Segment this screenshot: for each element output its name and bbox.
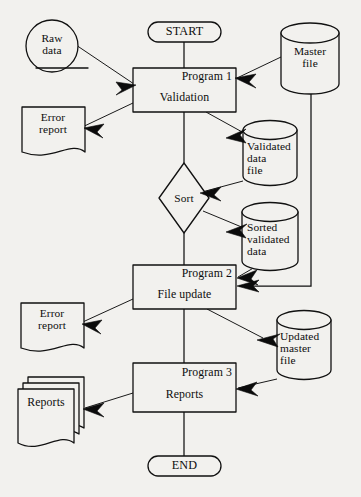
edge-program1-to-validateddata	[206, 112, 244, 133]
edge-sort-to-sortedvalidated	[203, 211, 244, 228]
node-reports-sheet-1	[18, 389, 74, 446]
node-sort	[159, 163, 209, 233]
edge-program3-to-reports	[85, 393, 133, 408]
node-master-file-top	[281, 23, 339, 43]
node-sorted-validated-data-top	[242, 203, 298, 222]
flowchart-canvas: START Raw data Master file Program 1 Val…	[0, 0, 361, 497]
flowchart-svg	[0, 0, 361, 497]
edge-masterfile-to-program1	[237, 57, 281, 78]
node-end	[148, 456, 221, 476]
edge-validateddata-to-sort	[202, 181, 243, 192]
node-program1	[133, 68, 236, 112]
arrowhead-program1-to-errorreport1	[84, 124, 104, 138]
node-validated-data-file-top	[243, 121, 297, 140]
node-start	[148, 22, 221, 42]
node-error-report-1	[22, 107, 85, 155]
arrowhead-program2-to-errorreport2	[82, 320, 102, 334]
edge-rawdata-to-program1	[76, 45, 134, 84]
node-error-report-2	[21, 303, 84, 351]
node-updated-master-file-top	[277, 311, 331, 330]
node-raw-data	[26, 20, 78, 72]
node-program3	[133, 363, 236, 412]
arrowhead-masterfile-to-program1	[235, 74, 256, 88]
arrowhead-updatedmaster-to-program3	[236, 382, 258, 396]
edge-program2-to-updatedmaster	[207, 309, 263, 338]
node-program2	[133, 265, 236, 309]
